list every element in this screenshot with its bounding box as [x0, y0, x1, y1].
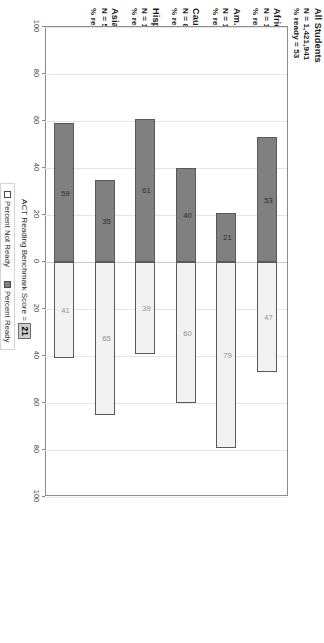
- axis-tick-label: 20: [32, 297, 41, 319]
- gridline: [44, 356, 287, 357]
- bar-value-label-not-ready: 41: [56, 306, 76, 315]
- chart-canvas: All StudentsN = 1,421,941% ready = 53Afr…: [0, 0, 324, 643]
- axis-tick-label: 0: [32, 250, 41, 272]
- axis-tick-label: 100: [32, 485, 41, 507]
- bar-value-label-ready: 59: [56, 188, 76, 197]
- axis-tick-label: 60: [32, 391, 41, 413]
- axis-tick-label: 80: [32, 438, 41, 460]
- axis-tick-mark: [42, 449, 45, 450]
- axis-tick-mark: [42, 26, 45, 27]
- benchmark-annotation-text: ACT Reading Benchmark Score =: [20, 199, 29, 321]
- axis-tick-mark: [42, 214, 45, 215]
- gridline: [44, 121, 287, 122]
- group-name: All Students: [313, 8, 323, 63]
- axis-tick-mark: [42, 261, 45, 262]
- chart-rotation-stage: All StudentsN = 1,421,941% ready = 53Afr…: [0, 0, 324, 643]
- bar-value-label-ready: 61: [137, 186, 157, 195]
- axis-tick-label: 100: [32, 15, 41, 37]
- axis-tick-mark: [42, 496, 45, 497]
- axis-tick-mark: [42, 167, 45, 168]
- axis-tick-label: 40: [32, 344, 41, 366]
- gridline: [44, 450, 287, 451]
- gridline: [44, 403, 287, 404]
- bar-value-label-not-ready: 60: [177, 328, 197, 337]
- axis-tick-label: 20: [32, 203, 41, 225]
- axis-tick-mark: [42, 355, 45, 356]
- axis-tick-mark: [42, 402, 45, 403]
- bar-value-label-not-ready: 65: [96, 334, 116, 343]
- zero-line: [44, 262, 287, 263]
- gridline: [44, 74, 287, 75]
- axis-tick-label: 40: [32, 156, 41, 178]
- legend-swatch-ready: [4, 281, 11, 288]
- group-ready-line: % ready = 53: [292, 8, 301, 63]
- gridline: [44, 215, 287, 216]
- legend-swatch-notready: [4, 191, 11, 198]
- bar-value-label-ready: 53: [258, 195, 278, 204]
- bar-value-label-not-ready: 47: [258, 313, 278, 322]
- bar-value-label-ready: 40: [177, 211, 197, 220]
- group-header: All StudentsN = 1,421,941% ready = 53: [292, 8, 323, 63]
- legend-label: Percent Not Ready: [3, 201, 12, 267]
- bar-value-label-not-ready: 79: [218, 350, 238, 359]
- axis-tick-label: 60: [32, 109, 41, 131]
- bar-value-label-not-ready: 39: [137, 303, 157, 312]
- legend-label: Percent Ready: [3, 291, 12, 343]
- axis-tick-mark: [42, 120, 45, 121]
- legend-item: Percent Not Ready: [3, 191, 12, 267]
- benchmark-score-badge: 21: [18, 323, 31, 339]
- gridline: [44, 309, 287, 310]
- axis-tick-label: 80: [32, 62, 41, 84]
- bar-value-label-ready: 21: [218, 233, 238, 242]
- legend-item: Percent Ready: [3, 281, 12, 343]
- gridline: [44, 497, 287, 498]
- axis-tick-mark: [42, 308, 45, 309]
- axis-tick-mark: [42, 73, 45, 74]
- gridline: [44, 168, 287, 169]
- plot-area: 534721794060613935655941: [45, 26, 288, 496]
- chart-legend: Percent Not ReadyPercent Ready: [0, 183, 15, 350]
- gridline: [44, 27, 287, 28]
- group-n-line: N = 1,421,941: [302, 8, 311, 63]
- bar-value-label-ready: 35: [96, 216, 116, 225]
